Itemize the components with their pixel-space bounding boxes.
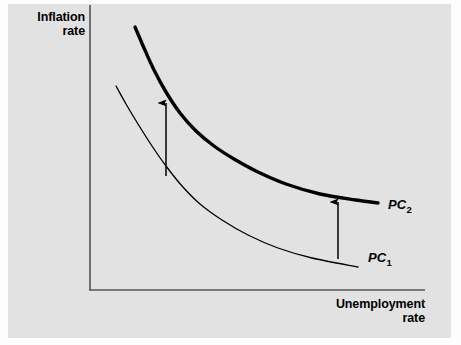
- curve-label-pc1: PC1: [368, 250, 392, 268]
- curve-label-pc2: PC2: [388, 197, 412, 215]
- x-axis-label: Unemployment rate: [280, 297, 425, 325]
- phillips-curve-figure: Inflation rate Unemployment rate PC2 PC1: [0, 0, 461, 345]
- curve-label-pc1-text: PC: [368, 250, 386, 265]
- curve-pc1: [116, 86, 358, 267]
- curve-label-pc2-subscript: 2: [406, 204, 411, 215]
- curve-label-pc1-subscript: 1: [386, 257, 391, 268]
- phillips-curve-plot: [0, 0, 461, 345]
- y-axis-label: Inflation rate: [6, 10, 85, 38]
- curve-label-pc2-text: PC: [388, 197, 406, 212]
- curve-pc2: [135, 27, 378, 203]
